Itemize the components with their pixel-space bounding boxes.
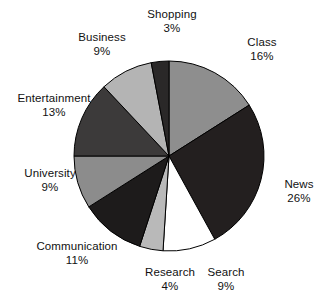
slice-label-business-name: Business — [62, 31, 142, 45]
slice-label-search-value: 9% — [199, 280, 253, 294]
slice-label-search-name: Search — [199, 266, 253, 280]
slice-label-search: Search 9% — [199, 266, 253, 293]
slice-label-university-value: 9% — [10, 181, 90, 195]
slice-label-research-name: Research — [137, 266, 203, 280]
slice-label-shopping-name: Shopping — [131, 8, 213, 22]
slice-label-shopping-value: 3% — [131, 22, 213, 36]
slice-label-shopping: Shopping 3% — [131, 8, 213, 35]
slice-label-research-value: 4% — [137, 280, 203, 294]
pie-chart: Shopping 3% Class 16% Business 9% Entert… — [0, 0, 335, 308]
slice-label-news-name: News — [272, 178, 326, 192]
slice-label-entertainment-name: Entertainment — [2, 92, 106, 106]
slice-label-news-value: 26% — [272, 192, 326, 206]
slice-label-class-value: 16% — [227, 50, 297, 64]
slice-label-communication-value: 11% — [22, 254, 132, 268]
slice-label-entertainment: Entertainment 13% — [2, 92, 106, 119]
slice-label-communication: Communication 11% — [22, 240, 132, 267]
slice-label-business: Business 9% — [62, 31, 142, 58]
slice-label-communication-name: Communication — [22, 240, 132, 254]
slice-label-research: Research 4% — [137, 266, 203, 293]
slice-label-university-name: University — [10, 167, 90, 181]
slice-label-class-name: Class — [227, 36, 297, 50]
slice-label-class: Class 16% — [227, 36, 297, 63]
slice-label-university: University 9% — [10, 167, 90, 194]
slice-label-entertainment-value: 13% — [2, 106, 106, 120]
slice-label-news: News 26% — [272, 178, 326, 205]
slice-label-business-value: 9% — [62, 45, 142, 59]
pie-slice-group — [74, 61, 264, 251]
